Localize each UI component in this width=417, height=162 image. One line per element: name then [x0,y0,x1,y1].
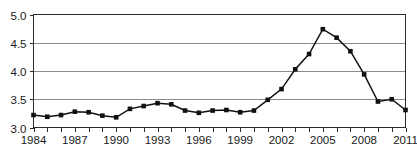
data-point-marker [128,107,133,112]
data-point-marker [31,113,36,118]
data-point-marker [197,111,202,116]
data-point-marker [224,108,229,113]
chart-canvas: 3.03.54.04.55.0 198419871990199319961999… [0,0,417,162]
x-axis-tick-label: 1993 [145,134,171,146]
data-point-marker [321,27,326,32]
data-point-marker [362,72,367,77]
data-point-marker [73,109,78,114]
data-point-marker [348,49,353,54]
x-axis-tick-label: 2011 [393,134,417,146]
data-point-marker [86,110,91,115]
data-point-marker [169,102,174,107]
data-point-marker [279,87,284,92]
data-point-marker [389,97,394,102]
data-point-marker [293,67,298,72]
y-axis-tick-label: 5.0 [11,10,27,22]
data-point-marker [307,52,312,57]
data-point-marker [403,108,408,113]
data-point-marker [238,110,243,115]
data-point-marker [45,114,50,119]
x-axis-tick-label: 2002 [269,134,295,146]
x-axis-tick-label: 1987 [62,134,88,146]
y-axis-tick-label: 3.5 [11,94,27,106]
x-axis-tick-label: 2008 [351,134,377,146]
data-point-marker [183,108,188,113]
x-axis-tick-label: 1990 [103,134,129,146]
data-point-marker [155,101,160,106]
data-point-marker [59,113,64,118]
data-point-marker [334,35,339,40]
y-axis-tick-label: 4.0 [11,66,27,78]
y-axis-tick-label: 4.5 [11,38,27,50]
data-point-marker [114,115,119,120]
line-chart: 3.03.54.04.55.0 198419871990199319961999… [0,0,417,162]
data-point-marker [252,108,257,113]
x-axis-tick-label: 1984 [21,134,47,146]
data-point-marker [265,98,270,103]
x-axis-tick-label: 2005 [310,134,336,146]
data-point-marker [210,108,215,113]
x-axis-tick-label: 1996 [186,134,212,146]
x-axis-tick-label: 1999 [227,134,253,146]
data-point-marker [141,104,146,109]
data-point-marker [376,99,381,104]
data-point-marker [100,113,105,118]
